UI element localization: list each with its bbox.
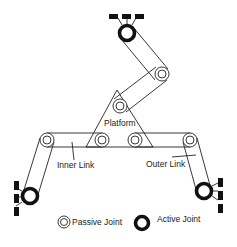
legend-passive-label: Passive Joint	[72, 217, 123, 227]
legend-passive-icon	[58, 216, 70, 228]
inner-link-label: Inner Link	[57, 160, 95, 170]
passive-joint-icon	[183, 133, 197, 147]
active-joint-icon	[197, 184, 212, 199]
active-joint-icon	[120, 26, 135, 41]
active-joint-icon	[23, 189, 38, 204]
passive-joint-icon	[155, 67, 169, 81]
platform-label: Platform	[104, 118, 136, 128]
inner-link	[47, 133, 102, 147]
legend-active-label: Active Joint	[157, 214, 201, 224]
passive-joint-icon	[95, 133, 109, 147]
outer-link-pointer	[172, 155, 196, 157]
mechanism-diagram: Platform Inner Link Outer Link Passive J…	[0, 0, 237, 247]
right-horizontal-link	[135, 133, 190, 147]
passive-joint-icon	[113, 99, 127, 113]
inner-link-pointer	[72, 142, 74, 160]
right-ground	[218, 178, 223, 213]
legend-active-icon	[136, 217, 149, 230]
legend: Passive Joint Active Joint	[58, 214, 201, 230]
left-ground	[14, 181, 19, 216]
passive-joint-icon	[128, 133, 142, 147]
outer-link-label: Outer Link	[146, 159, 186, 169]
passive-joint-icon	[40, 133, 54, 147]
top-ground	[109, 14, 144, 19]
